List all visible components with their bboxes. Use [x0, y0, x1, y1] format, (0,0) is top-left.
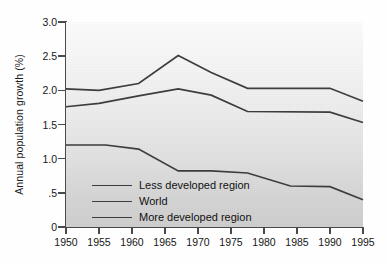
- y-axis-tick-label: 0: [27, 221, 57, 233]
- series-line-less-developed-region: [66, 55, 363, 101]
- legend-line-swatch-icon: [92, 201, 132, 202]
- x-axis-tick-mark: [230, 227, 232, 234]
- y-axis-tick-label: 1.5: [27, 119, 57, 131]
- legend-line-swatch-icon: [92, 217, 132, 218]
- y-axis-tick-label: .5: [27, 187, 57, 199]
- x-axis-tick-mark: [131, 227, 133, 234]
- x-axis-tick-mark: [197, 227, 199, 234]
- series-line-world: [66, 89, 363, 122]
- plot-area: Less developed region World More develop…: [66, 22, 363, 227]
- x-axis-tick-mark: [65, 227, 67, 234]
- y-axis-tick-label: 2.5: [27, 50, 57, 62]
- legend-item-label: Less developed region: [139, 179, 250, 191]
- x-axis-tick-label: 1995: [343, 236, 383, 248]
- y-axis-tick-mark: [58, 55, 65, 57]
- x-axis-tick-mark: [296, 227, 298, 234]
- legend-item-label: More developed region: [139, 211, 252, 223]
- y-axis-title: Annual population growth (%): [10, 22, 28, 227]
- x-axis-tick-mark: [164, 227, 166, 234]
- x-axis-tick-mark: [329, 227, 331, 234]
- x-axis-tick-mark: [362, 227, 364, 234]
- y-axis-tick-mark: [58, 124, 65, 126]
- x-axis-tick-mark: [263, 227, 265, 234]
- y-axis-tick-mark: [58, 90, 65, 92]
- y-axis-tick-mark: [58, 158, 65, 160]
- chart-figure: Annual population growth (%) 0.51.01.52.…: [0, 0, 387, 264]
- legend-item-more-developed-region: More developed region: [92, 209, 327, 225]
- chart-legend: Less developed region World More develop…: [92, 177, 327, 225]
- legend-line-swatch-icon: [92, 185, 132, 186]
- legend-item-world: World: [92, 193, 327, 209]
- y-axis-tick-mark: [58, 21, 65, 23]
- legend-item-label: World: [139, 195, 168, 207]
- y-axis-tick-label: 2.0: [27, 84, 57, 96]
- y-axis-tick-mark: [58, 192, 65, 194]
- y-axis-tick-label: 1.0: [27, 153, 57, 165]
- y-axis-tick-label: 3.0: [27, 16, 57, 28]
- x-axis-tick-mark: [98, 227, 100, 234]
- legend-item-less-developed-region: Less developed region: [92, 177, 327, 193]
- y-axis-tick-mark: [58, 226, 65, 228]
